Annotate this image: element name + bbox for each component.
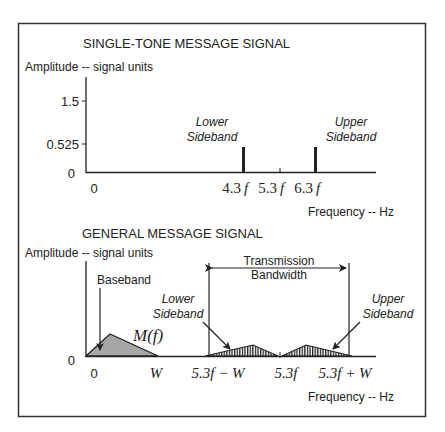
- lower-sideband-spectrum: [205, 345, 278, 356]
- svg-text:f: f: [316, 180, 322, 196]
- upper-sideband-arrow: [333, 322, 360, 349]
- top-upper-sideband-label: Upper Sideband: [326, 115, 377, 144]
- bottom-y-axis-label: Amplitude -- signal units: [25, 246, 153, 260]
- x-tick-0: 0: [90, 181, 97, 196]
- figure-frame: [19, 24, 426, 417]
- svg-text:Sideband: Sideband: [363, 307, 414, 321]
- x-tick-5-3f-bottom: 5.3f: [275, 365, 300, 381]
- svg-text:f: f: [280, 180, 286, 196]
- bottom-x-axis-label: Frequency -- Hz: [308, 390, 394, 404]
- bandwidth-label-line1: Transmission: [244, 254, 315, 268]
- svg-text:Sideband: Sideband: [187, 130, 238, 144]
- x-tick-w: W: [150, 365, 164, 381]
- y-tick-0: 0: [68, 166, 75, 181]
- y-tick-0-525: 0.525: [46, 137, 79, 152]
- svg-text:4.3: 4.3: [222, 180, 241, 196]
- lower-sideband-arrow: [203, 322, 230, 349]
- bottom-upper-sideband-label: Upper Sideband: [363, 292, 414, 321]
- bandwidth-label-line2: Bandwidth: [251, 268, 307, 282]
- x-tick-5-3f-minus-w: 5.3f − W: [191, 365, 246, 381]
- bottom-panel: GENERAL MESSAGE SIGNAL Amplitude -- sign…: [25, 226, 414, 404]
- svg-text:Sideband: Sideband: [153, 307, 204, 321]
- svg-text:5.3: 5.3: [258, 180, 277, 196]
- top-lower-sideband-label: Lower Sideband: [187, 115, 238, 144]
- spectrum-label-mf: M(f): [132, 326, 164, 345]
- y-tick-1-5: 1.5: [61, 94, 79, 109]
- baseband-label: Baseband: [97, 273, 151, 287]
- svg-text:Sideband: Sideband: [326, 130, 377, 144]
- upper-sideband-spectrum: [282, 345, 352, 356]
- bottom-y-tick-0: 0: [68, 353, 75, 368]
- x-tick-5-3f-plus-w: 5.3f + W: [318, 365, 373, 381]
- bottom-x-tick-0: 0: [90, 366, 97, 381]
- top-x-axis-label: Frequency -- Hz: [308, 205, 394, 219]
- svg-text:Lower: Lower: [196, 115, 230, 129]
- bottom-panel-title: GENERAL MESSAGE SIGNAL: [82, 226, 263, 241]
- svg-text:f: f: [244, 180, 250, 196]
- bottom-lower-sideband-label: Lower Sideband: [153, 292, 204, 321]
- top-panel: SINGLE-TONE MESSAGE SIGNAL Amplitude -- …: [25, 36, 394, 219]
- top-y-axis-label: Amplitude -- signal units: [25, 60, 153, 74]
- x-tick-6-3f: 6.3 f: [294, 180, 322, 196]
- svg-text:Lower: Lower: [162, 292, 196, 306]
- x-tick-4-3f: 4.3 f: [222, 180, 250, 196]
- svg-text:Upper: Upper: [372, 292, 406, 306]
- diagram-canvas: SINGLE-TONE MESSAGE SIGNAL Amplitude -- …: [0, 0, 445, 432]
- svg-text:6.3: 6.3: [294, 180, 313, 196]
- top-panel-title: SINGLE-TONE MESSAGE SIGNAL: [83, 36, 290, 51]
- x-tick-5-3f: 5.3 f: [258, 180, 286, 196]
- svg-text:Upper: Upper: [335, 115, 369, 129]
